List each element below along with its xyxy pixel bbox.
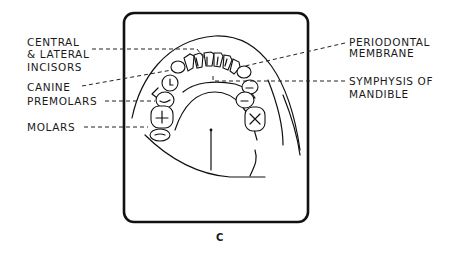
midline-dot (210, 129, 213, 132)
tooth-central-incisor-right (214, 53, 223, 67)
right-gum-curve (283, 95, 300, 155)
leader-canine (82, 70, 172, 86)
label-molars: MOLARS (27, 121, 75, 133)
label-symphysis-line2: MANDIBLE (349, 88, 409, 100)
tooth-lateral-incisor-left (184, 54, 194, 71)
leader-periodontal (245, 43, 345, 66)
tooth-central-incisor-left-2 (204, 52, 214, 66)
right-gum-curve-2 (268, 80, 283, 145)
figure-caption: C (216, 232, 223, 243)
label-canine: CANINE (27, 81, 71, 93)
right-inner-side (250, 150, 256, 176)
tooth-canine-left (171, 61, 185, 73)
label-incisors-line2: & LATERAL (27, 48, 89, 60)
incisors-group (184, 52, 240, 74)
tooth-premolar-right-2 (236, 92, 254, 108)
dental-arch-diagram: CENTRAL & LATERAL INCISORS CANINE PREMOL… (0, 0, 463, 274)
label-incisors-line3: INCISORS (27, 61, 82, 73)
tooth-canine-right (237, 66, 251, 78)
label-incisors-line1: CENTRAL (27, 36, 79, 48)
label-symphysis-line1: SYMPHYSIS OF (349, 75, 433, 87)
label-premolars: PREMOLARS (27, 95, 97, 107)
tooth-molar-left-2 (150, 129, 170, 141)
label-periodontal-line2: MEMBRANE (349, 47, 414, 59)
